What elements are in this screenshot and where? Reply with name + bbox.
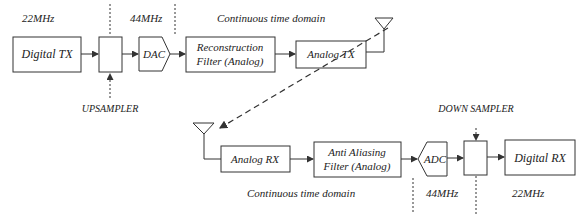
rx-continuous-domain-label: Continuous time domain — [247, 187, 356, 199]
dac-label: DAC — [142, 48, 166, 60]
downsampler-block — [464, 141, 487, 175]
reconstruction-label-2: Filter (Analog) — [196, 55, 264, 68]
block-diagram: 22MHz 44MHz Continuous time domain Digit… — [0, 0, 587, 216]
tx-antenna-icon — [375, 18, 393, 29]
adc-label: ADC — [423, 153, 447, 165]
digital-rx-label: Digital RX — [513, 151, 566, 165]
rx-rate-22-label: 22MHz — [512, 187, 545, 199]
upsampler-label: UPSAMPLER — [82, 103, 139, 114]
antialias-label-1: Anti Aliasing — [327, 146, 386, 158]
digital-tx-label: Digital TX — [20, 47, 73, 61]
rx-rate-44-label: 44MHz — [426, 187, 459, 199]
upsampler-block — [99, 37, 122, 72]
analog-rx-label: Analog RX — [230, 153, 280, 165]
analog-tx-label: Analog TX — [306, 48, 356, 60]
rx-antenna-icon — [193, 123, 214, 134]
reconstruction-label-1: Reconstruction — [196, 41, 264, 53]
tx-rate-44-label: 44MHz — [130, 12, 163, 24]
tx-rate-22-label: 22MHz — [22, 12, 55, 24]
antialias-label-2: Filter (Analog) — [323, 160, 391, 173]
tx-continuous-domain-label: Continuous time domain — [217, 12, 326, 24]
downsampler-label: DOWN SAMPLER — [437, 103, 513, 114]
